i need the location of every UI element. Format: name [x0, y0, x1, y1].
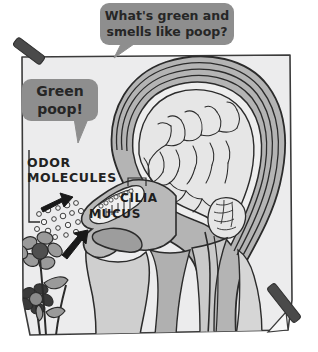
- question-bubble-line1: What's green and: [105, 8, 229, 23]
- flower-region: [18, 230, 78, 335]
- brain-region: [133, 85, 258, 240]
- question-bubble-line2: smells like poop?: [106, 24, 227, 39]
- illustration-root: ODOR MOLECULES CILIA MUCUS What's green …: [0, 0, 318, 352]
- question-bubble[interactable]: What's green and smells like poop?: [100, 3, 234, 58]
